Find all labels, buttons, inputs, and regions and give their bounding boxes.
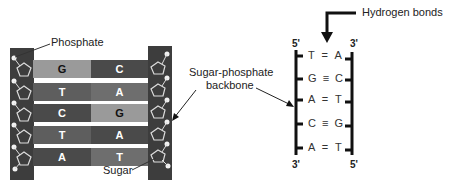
bp-left: A [308,141,315,153]
bp-bond: = [322,93,328,105]
backbone-arrow-left [174,90,196,118]
bp-row-4: C ≡ G [308,117,343,129]
diagram-graphics [0,0,449,187]
bp-row-2: G ≡ C [308,72,343,84]
arrowhead-icon [321,32,333,43]
bp-right: A [334,49,341,61]
bp-right: C [335,72,343,84]
label-3prime-bottom: 3' [292,159,300,170]
bp-left: A [308,93,315,105]
bp-bond: = [322,141,328,153]
phosphate-label: Phosphate [51,36,104,48]
phosphate-pointer [15,44,50,57]
label-5prime-top: 5' [292,38,300,49]
bp-row-3: A = T [308,93,342,105]
backbone-label-line2: backbone [206,79,254,91]
hydrogen-bonds-label: Hydrogen bonds [362,6,443,18]
bp-bond: ≡ [322,117,328,129]
backbone-label-line1: Sugar-phosphate [189,66,273,78]
sugar-label: Sugar [103,164,132,176]
sugar-pointer [132,158,156,170]
bp-right: T [335,141,342,153]
bp-bond: = [322,49,328,61]
bp-right: G [335,117,344,129]
label-3prime-top: 3' [350,38,358,49]
right-sugar-icons [151,62,165,162]
arrowhead-icon [172,113,179,121]
bp-bond: ≡ [323,72,329,84]
left-sugar-icons [17,63,31,165]
bp-row-5: A = T [308,141,342,153]
bp-left: G [308,72,317,84]
backbone-arrow-right [256,88,291,105]
bp-row-1: T = A [308,49,342,61]
hydrogen-bond-arrow [327,13,356,32]
bp-left: C [308,117,316,129]
bp-right: T [335,93,342,105]
label-5prime-bottom: 5' [350,159,358,170]
bp-left: T [308,49,315,61]
